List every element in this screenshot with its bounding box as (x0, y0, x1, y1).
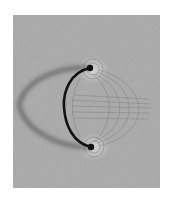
photo-canvas (0, 0, 170, 197)
wire-bottom-end (88, 144, 94, 150)
wire-top-end (87, 65, 93, 71)
iron-filings-photo (0, 0, 170, 197)
